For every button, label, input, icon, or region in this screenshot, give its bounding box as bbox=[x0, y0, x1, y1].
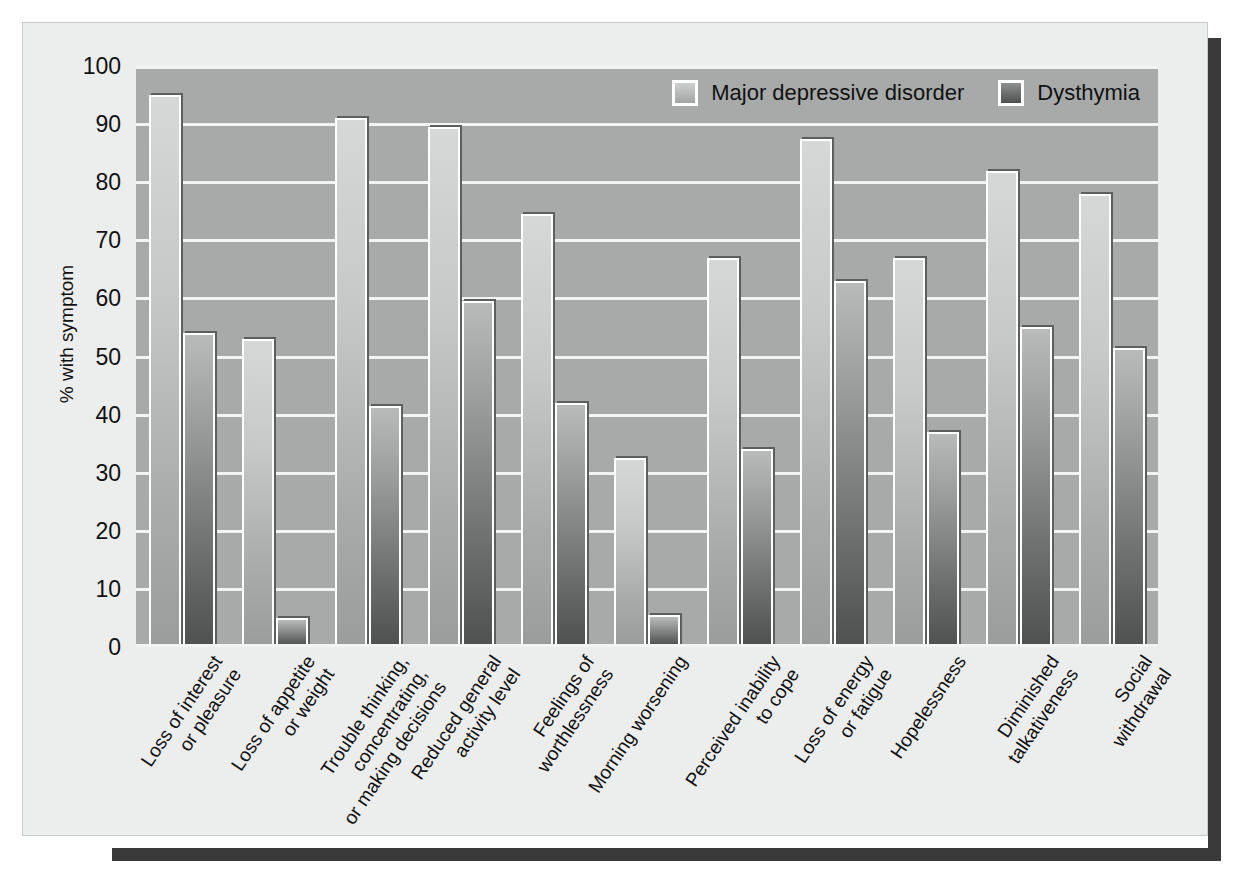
x-axis-tick: Social withdrawal bbox=[1087, 651, 1176, 751]
bar-dysthymia[interactable] bbox=[276, 618, 308, 647]
bar-mdd[interactable] bbox=[242, 339, 274, 647]
bar-group bbox=[1065, 66, 1158, 647]
y-axis-tick: 0 bbox=[108, 634, 121, 661]
y-axis-tick: 100 bbox=[83, 53, 121, 80]
bar-dysthymia[interactable] bbox=[648, 615, 680, 647]
bar-dysthymia[interactable] bbox=[183, 333, 215, 647]
x-axis-baseline bbox=[136, 644, 1158, 647]
legend-swatch-icon bbox=[672, 80, 698, 106]
legend-label: Major depressive disorder bbox=[711, 80, 964, 106]
plot-area: Major depressive disorderDysthymia bbox=[136, 66, 1158, 647]
legend-item[interactable]: Dysthymia bbox=[998, 80, 1140, 106]
bar-mdd[interactable] bbox=[521, 214, 553, 647]
figure-panel: % with symptom 1009080706050403020100 Ma… bbox=[22, 22, 1208, 836]
y-axis-tick-labels: 1009080706050403020100 bbox=[23, 66, 131, 647]
bar-dysthymia[interactable] bbox=[1020, 327, 1052, 647]
bar-mdd[interactable] bbox=[707, 258, 739, 647]
legend-swatch-icon bbox=[998, 80, 1024, 106]
chart-legend: Major depressive disorderDysthymia bbox=[672, 80, 1140, 106]
y-axis-tick: 70 bbox=[95, 227, 121, 254]
bar-mdd[interactable] bbox=[800, 139, 832, 647]
x-axis-tick: Loss of energy or fatigue bbox=[789, 651, 897, 780]
y-axis-tick: 80 bbox=[95, 169, 121, 196]
figure-shadow-right bbox=[1208, 38, 1221, 852]
legend-label: Dysthymia bbox=[1037, 80, 1140, 106]
bar-group bbox=[601, 66, 694, 647]
y-axis-tick: 50 bbox=[95, 343, 121, 370]
y-axis-tick: 90 bbox=[95, 111, 121, 138]
y-axis-tick: 40 bbox=[95, 401, 121, 428]
bar-dysthymia[interactable] bbox=[1113, 348, 1145, 647]
bar-group bbox=[786, 66, 879, 647]
bar-group bbox=[972, 66, 1065, 647]
legend-item[interactable]: Major depressive disorder bbox=[672, 80, 964, 106]
x-axis-tick: Diminished talkativeness bbox=[983, 651, 1083, 768]
bar-group bbox=[415, 66, 508, 647]
y-axis-tick: 10 bbox=[95, 575, 121, 602]
bar-group bbox=[136, 66, 229, 647]
bar-group bbox=[322, 66, 415, 647]
bar-group bbox=[508, 66, 601, 647]
figure-root: % with symptom 1009080706050403020100 Ma… bbox=[22, 22, 1208, 836]
bar-mdd[interactable] bbox=[335, 118, 367, 647]
x-axis-tick-labels: Loss of interest or pleasureLoss of appe… bbox=[136, 651, 1158, 837]
bar-group bbox=[693, 66, 786, 647]
y-axis-tick: 60 bbox=[95, 285, 121, 312]
bar-dysthymia[interactable] bbox=[462, 301, 494, 647]
bar-mdd[interactable] bbox=[893, 258, 925, 647]
x-axis-tick: Perceived inability to cope bbox=[680, 651, 804, 804]
bar-group bbox=[229, 66, 322, 647]
x-axis-tick: Hopelessness bbox=[885, 651, 971, 763]
bar-group bbox=[879, 66, 972, 647]
bar-mdd[interactable] bbox=[986, 171, 1018, 647]
bar-dysthymia[interactable] bbox=[741, 449, 773, 647]
bar-dysthymia[interactable] bbox=[555, 403, 587, 647]
bar-dysthymia[interactable] bbox=[369, 406, 401, 647]
bar-mdd[interactable] bbox=[614, 458, 646, 647]
y-axis-tick: 30 bbox=[95, 459, 121, 486]
y-axis-tick: 20 bbox=[95, 517, 121, 544]
figure-shadow-bottom bbox=[112, 848, 1221, 861]
bar-mdd[interactable] bbox=[1079, 194, 1111, 647]
bar-mdd[interactable] bbox=[428, 127, 460, 647]
bar-mdd[interactable] bbox=[149, 95, 181, 647]
bar-dysthymia[interactable] bbox=[834, 281, 866, 647]
bar-dysthymia[interactable] bbox=[927, 432, 959, 647]
